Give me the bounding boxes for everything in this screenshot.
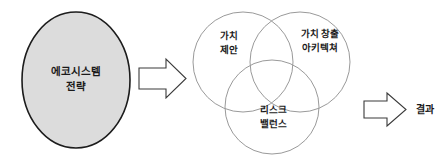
venn-circle-risk-balance[interactable]: 리스크 밸런스 [225,60,319,154]
arrow-right-icon-2 [364,93,406,126]
venn-circle-3-label-line1: 리스크 [260,104,287,115]
arrow-right-icon-1 [139,59,186,98]
venn-circle-1-label-line1: 가치 [220,30,238,41]
venn-circle-3-label-line2: 밸런스 [260,118,287,129]
venn-circle-value-proposition[interactable]: 가치 제안 [193,12,293,112]
source-label-line1: 에코시스템 [51,65,101,77]
venn-diagram: 가치 제안 가치 창출 아키텍쳐 리스크 밸런스 [193,12,350,154]
venn-circle-2-label-line1: 가치 창출 [301,28,340,39]
source-node[interactable]: 에코시스템 전략 [22,12,130,148]
venn-circle-value-creation-architecture[interactable]: 가치 창출 아키텍쳐 [250,12,350,112]
result-label: 결과 [416,103,435,115]
venn-circle-1-shape [193,12,293,112]
diagram-canvas: 에코시스템 전략 가치 제안 가치 창출 아키텍쳐 리스크 [0,0,439,163]
result-node: 결과 [416,103,435,115]
source-label-line2: 전략 [66,80,86,92]
diagram-svg: 에코시스템 전략 가치 제안 가치 창출 아키텍쳐 리스크 [0,0,439,163]
arrow-2-shape [364,93,406,126]
venn-circle-2-label-line2: 아키텍쳐 [302,42,338,53]
arrow-1-shape [139,59,186,98]
venn-circle-1-label-line2: 제안 [220,44,238,55]
